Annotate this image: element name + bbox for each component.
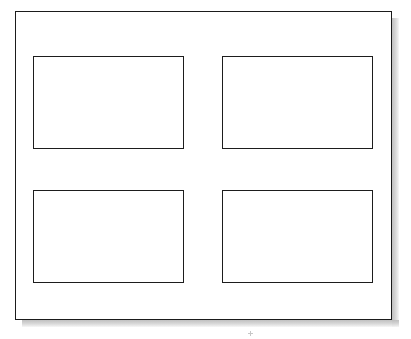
panel-top-left[interactable] — [33, 56, 184, 149]
frame-drop-shadow-bottom — [22, 320, 399, 327]
panel-grid — [16, 12, 391, 319]
figure-canvas — [0, 0, 411, 339]
registration-mark-icon — [248, 331, 253, 336]
outer-frame — [15, 11, 392, 320]
panel-bottom-right[interactable] — [222, 190, 373, 283]
panel-bottom-left[interactable] — [33, 190, 184, 283]
panel-top-right[interactable] — [222, 56, 373, 149]
frame-drop-shadow-right — [392, 18, 399, 327]
